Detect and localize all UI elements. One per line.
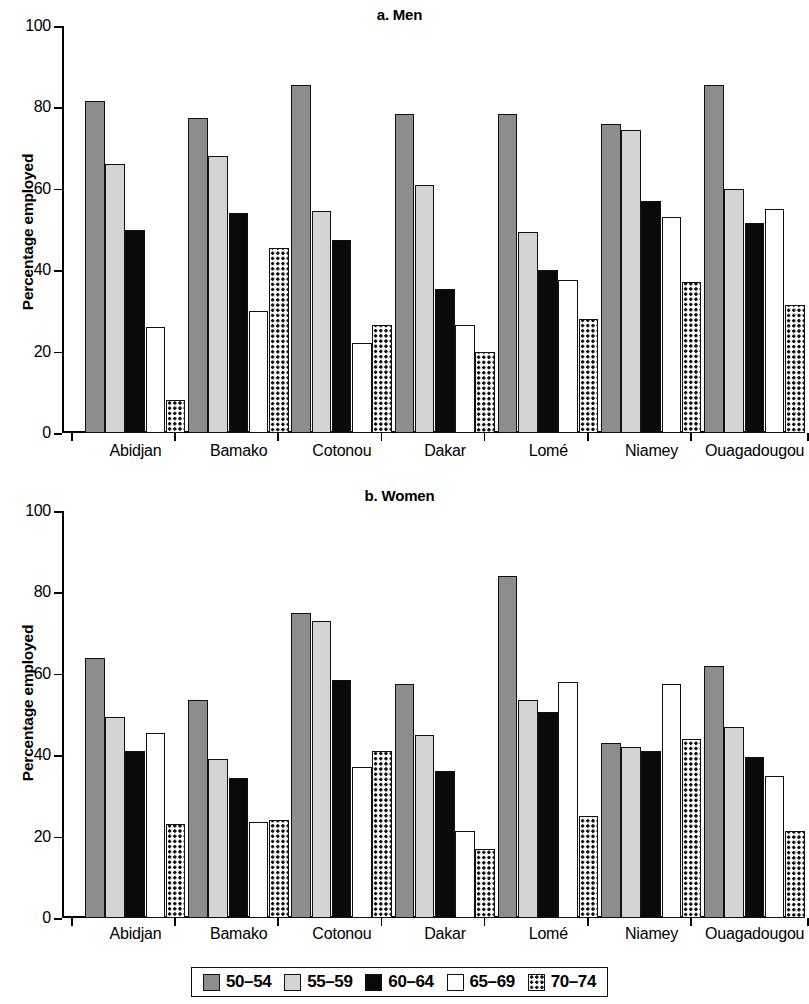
bar xyxy=(745,757,765,918)
y-tick-label: 0 xyxy=(42,909,51,927)
bar xyxy=(621,747,641,918)
legend-swatch-icon xyxy=(365,974,382,991)
bar xyxy=(332,680,352,918)
bar xyxy=(704,666,724,918)
x-tick xyxy=(174,433,176,441)
bar-group-cotonou xyxy=(291,26,392,433)
bar xyxy=(475,849,495,918)
y-tick-men-80 xyxy=(54,107,62,109)
bar xyxy=(105,164,125,433)
bar xyxy=(538,270,558,433)
bar xyxy=(166,400,186,433)
bar xyxy=(208,759,228,918)
legend-label: 70–74 xyxy=(551,972,596,992)
legend-item-50-54: 50–54 xyxy=(203,972,271,992)
y-axis-label-men: Percentage employed xyxy=(19,122,37,342)
bar xyxy=(579,816,599,918)
bar-group-abidjan xyxy=(85,511,186,918)
x-axis-category-label: Lomé xyxy=(529,442,568,460)
bar xyxy=(765,776,785,918)
bar xyxy=(291,613,311,918)
bar xyxy=(415,185,435,433)
legend-label: 65–69 xyxy=(470,972,515,992)
bar xyxy=(312,211,332,433)
y-axis-label-women: Percentage employed xyxy=(19,593,37,813)
bar xyxy=(724,189,744,433)
legend-swatch-icon xyxy=(284,974,301,991)
bar xyxy=(785,831,805,919)
x-axis-category-label: Abidjan xyxy=(110,925,162,943)
bar-group-niamey xyxy=(601,26,702,433)
x-axis-category-label: Cotonou xyxy=(312,442,371,460)
bar xyxy=(269,820,289,918)
bar xyxy=(704,85,724,433)
bar xyxy=(146,733,166,918)
y-tick-women-0 xyxy=(54,918,62,920)
bar xyxy=(125,751,145,918)
plot-area-women: 020406080100 xyxy=(62,511,799,918)
bar xyxy=(641,751,661,918)
bar xyxy=(682,739,702,918)
y-tick-men-60 xyxy=(54,189,62,191)
y-tick-label: 0 xyxy=(42,424,51,442)
bar xyxy=(579,319,599,433)
x-axis-category-label: Bamako xyxy=(210,442,268,460)
bar xyxy=(85,101,105,433)
x-tick xyxy=(174,918,176,926)
bar-group-lom xyxy=(498,511,599,918)
legend-label: 50–54 xyxy=(226,972,271,992)
bar xyxy=(455,831,475,919)
bar xyxy=(352,343,372,433)
x-tick xyxy=(277,918,279,926)
bar-group-ouagadougou xyxy=(704,26,805,433)
x-axis-category-label: Ouagadougou xyxy=(705,925,804,943)
bar xyxy=(518,700,538,918)
panel-title-men: a. Men xyxy=(0,6,799,23)
y-tick-men-0 xyxy=(54,433,62,435)
bar-group-cotonou xyxy=(291,511,392,918)
bar xyxy=(641,201,661,433)
x-tick xyxy=(587,433,589,441)
bar xyxy=(229,778,249,918)
bar xyxy=(395,114,415,433)
legend-item-60-64: 60–64 xyxy=(365,972,433,992)
y-tick-label: 40 xyxy=(34,746,51,764)
x-axis-category-label: Niamey xyxy=(625,925,678,943)
bar xyxy=(229,213,249,433)
bar xyxy=(435,771,455,918)
x-tick xyxy=(690,433,692,441)
y-axis-line-women xyxy=(62,511,64,918)
x-axis-category-label: Cotonou xyxy=(312,925,371,943)
y-tick-label: 60 xyxy=(34,179,51,197)
bar-group-dakar xyxy=(395,26,496,433)
x-tick xyxy=(277,433,279,441)
bar xyxy=(269,248,289,433)
legend-item-65-69: 65–69 xyxy=(447,972,515,992)
bar xyxy=(146,327,166,433)
bar xyxy=(291,85,311,433)
bar xyxy=(188,118,208,433)
legend-label: 55–59 xyxy=(307,972,352,992)
bar-group-niamey xyxy=(601,511,702,918)
x-tick xyxy=(381,433,383,441)
x-tick xyxy=(690,918,692,926)
bar xyxy=(312,621,332,918)
bar-group-lom xyxy=(498,26,599,433)
legend-swatch-icon xyxy=(203,974,220,991)
panel-women: b. Women Percentage employed 02040608010… xyxy=(0,485,799,955)
x-tick xyxy=(807,433,809,441)
bar xyxy=(415,735,435,918)
y-tick-label: 80 xyxy=(34,583,51,601)
bar xyxy=(538,712,558,918)
bar xyxy=(682,282,702,433)
panel-title-women: b. Women xyxy=(0,487,799,504)
bar xyxy=(208,156,228,433)
bar xyxy=(395,684,415,918)
y-tick-label: 100 xyxy=(25,502,51,520)
bar xyxy=(475,352,495,433)
bar-group-dakar xyxy=(395,511,496,918)
y-tick-label: 40 xyxy=(34,261,51,279)
y-tick-men-40 xyxy=(54,270,62,272)
y-tick-women-60 xyxy=(54,674,62,676)
